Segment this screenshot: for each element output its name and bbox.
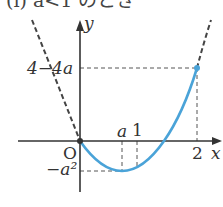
x-1-label: 1 <box>132 122 143 139</box>
y-axis-label: y <box>84 15 94 32</box>
x-2-label: 2 <box>192 145 203 162</box>
y-min-label: −a² <box>46 161 77 178</box>
y-axis-arrow-icon <box>76 20 84 31</box>
parabola-graph <box>0 0 223 207</box>
x-a-label: a <box>117 123 127 140</box>
origin-point <box>77 138 83 144</box>
y-max-label: 4−4a <box>27 60 73 77</box>
curve-extension-right <box>197 20 211 68</box>
x-axis-label: x <box>211 145 221 162</box>
endpoint <box>194 65 200 71</box>
curve-extension-left <box>32 20 80 141</box>
